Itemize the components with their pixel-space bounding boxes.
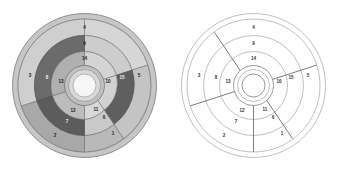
outline-diagram-svg: 4 5 1 2 3 9 15 6 7 8 14 10 11 12 13	[169, 0, 338, 171]
hub-center-outline	[242, 74, 265, 97]
outline-ring-diagram: 4 5 1 2 3 9 15 6 7 8 14 10 11 12 13	[169, 0, 338, 171]
hub-center	[73, 74, 96, 97]
figure-canvas: 4 5 1 2 3 9 15 6 7 8 14 10 11 12 13	[0, 0, 338, 171]
shaded-diagram-svg: 4 5 1 2 3 9 15 6 7 8 14 10 11 12 13	[0, 0, 169, 171]
shaded-ring-diagram: 4 5 1 2 3 9 15 6 7 8 14 10 11 12 13	[0, 0, 169, 171]
